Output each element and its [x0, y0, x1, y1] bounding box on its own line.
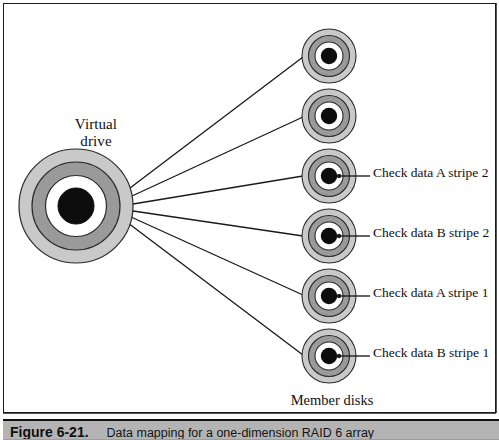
member-disks-label: Member disks — [262, 392, 402, 408]
figure-caption-text: Data mapping for a one-dimension RAID 6 … — [107, 426, 375, 440]
figure-container: Virtual drive Check data A stripe 2 Chec… — [0, 0, 499, 440]
figure-number: Figure 6-21. — [10, 424, 89, 440]
label-check-data-a-stripe-1: Check data A stripe 1 — [373, 285, 488, 300]
virtual-drive-label: Virtual drive — [48, 116, 144, 150]
figure-caption: Figure 6-21. Data mapping for a one-dime… — [10, 423, 374, 440]
connector-line-to-disk-6 — [128, 223, 303, 355]
figure-caption-bar: Figure 6-21. Data mapping for a one-dime… — [3, 419, 499, 440]
member-disk-1-center-hub — [321, 48, 337, 64]
figure-drawing-area: Virtual drive Check data A stripe 2 Chec… — [3, 3, 496, 413]
member-disk-2 — [302, 89, 356, 143]
leader-dot-check-b-stripe-1 — [337, 354, 341, 358]
leader-dot-check-a-stripe-1 — [337, 294, 341, 298]
member-disk-3-center-hub — [321, 168, 337, 184]
connector-line-to-disk-4 — [133, 211, 303, 236]
leader-dot-check-a-stripe-2 — [337, 174, 341, 178]
stripe-leader-lines — [338, 176, 370, 356]
member-disk-4-center-hub — [321, 228, 337, 244]
virtual-drive-center-hub — [58, 188, 94, 224]
label-check-data-a-stripe-2: Check data A stripe 2 — [373, 165, 488, 180]
connector-line-to-disk-1 — [130, 57, 303, 188]
member-disk-2-center-hub — [321, 108, 337, 124]
connector-lines — [128, 57, 303, 355]
member-disk-5-center-hub — [321, 288, 337, 304]
connector-line-to-disk-2 — [132, 117, 303, 196]
member-disk-1 — [302, 29, 356, 83]
label-check-data-b-stripe-1: Check data B stripe 1 — [373, 345, 489, 360]
virtual-drive-label-line-1: Virtual — [48, 116, 144, 133]
connector-line-to-disk-3 — [133, 176, 303, 204]
virtual-drive-disk — [19, 149, 133, 263]
leader-dot-check-b-stripe-2 — [337, 234, 341, 238]
connector-line-to-disk-5 — [131, 217, 303, 295]
label-check-data-b-stripe-2: Check data B stripe 2 — [373, 225, 489, 240]
virtual-drive-label-line-2: drive — [48, 133, 144, 150]
member-disk-6-center-hub — [321, 348, 337, 364]
